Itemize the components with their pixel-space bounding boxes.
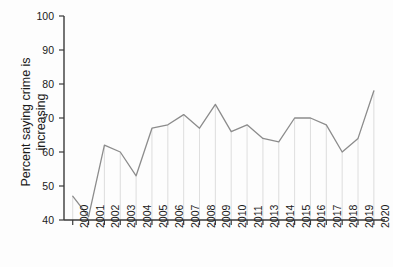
x-tick-label: 2014 — [284, 205, 296, 228]
data-series-line — [73, 91, 374, 217]
x-tick-label: 2002 — [109, 205, 121, 228]
x-tick-label: 2018 — [347, 205, 359, 228]
y-tick-label: 40 — [28, 214, 54, 226]
x-tick-label: 2009 — [220, 205, 232, 228]
x-tick-label: 2010 — [236, 205, 248, 228]
x-tick-label: 2008 — [205, 205, 217, 228]
x-tick-label: 2020 — [379, 205, 391, 228]
x-tick-label: 2011 — [252, 205, 264, 228]
x-tick-label: 2007 — [189, 205, 201, 228]
x-tick-label: 2004 — [141, 205, 153, 228]
y-tick-label: 100 — [28, 10, 54, 22]
x-tick-label: 2000 — [78, 205, 90, 228]
plot-area: 4050607080901002000200120022003200420052… — [0, 0, 393, 267]
x-tick-label: 2016 — [315, 205, 327, 228]
y-tick-label: 80 — [28, 78, 54, 90]
x-tick-label: 2001 — [94, 205, 106, 228]
y-tick-label: 70 — [28, 112, 54, 124]
x-tick-label: 2017 — [331, 205, 343, 228]
y-tick-label: 50 — [28, 180, 54, 192]
x-tick-label: 2005 — [157, 205, 169, 228]
y-tick-label: 90 — [28, 44, 54, 56]
x-tick-label: 2006 — [173, 205, 185, 228]
y-tick-label: 60 — [28, 146, 54, 158]
chart-container: Percent saying crime is increasing 40506… — [0, 0, 393, 267]
x-tick-label: 2019 — [363, 205, 375, 228]
x-tick-label: 2015 — [300, 205, 312, 228]
x-tick-label: 2013 — [268, 205, 280, 228]
x-tick-label: 2003 — [125, 205, 137, 228]
